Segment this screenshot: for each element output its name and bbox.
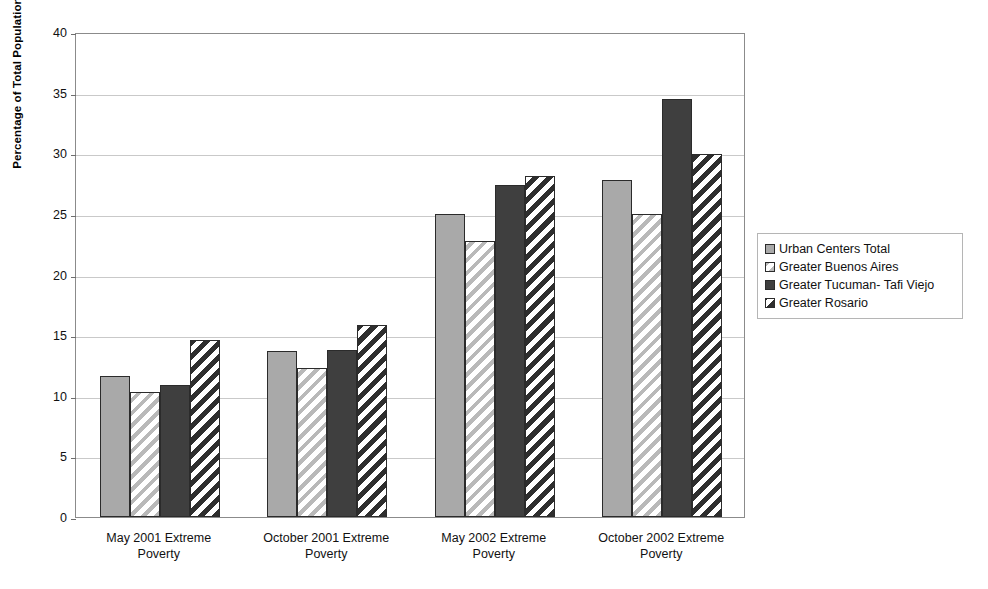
legend-swatch-icon: [765, 280, 775, 290]
x-axis-category-label: May 2001 ExtremePoverty: [69, 530, 249, 562]
y-axis-tick-label: 40: [31, 27, 67, 39]
y-axis-tickmark: [71, 337, 76, 338]
y-axis-tickmark: [71, 34, 76, 35]
y-axis-tickmark: [71, 398, 76, 399]
y-axis-tick-label: 10: [31, 391, 67, 403]
y-axis-tickmark: [71, 277, 76, 278]
x-axis-category-label-line: Poverty: [69, 546, 249, 562]
plot-area: [75, 33, 745, 518]
x-axis-category-label-line: Poverty: [404, 546, 584, 562]
y-axis-tick-label: 15: [31, 330, 67, 342]
bar: [130, 392, 160, 517]
x-axis-category-label-line: October 2002 Extreme: [571, 530, 751, 546]
bar: [267, 351, 297, 517]
bar: [465, 241, 495, 517]
bar-chart: Percentage of Total Population 051015202…: [0, 0, 988, 589]
x-axis-category-label-line: October 2001 Extreme: [236, 530, 416, 546]
legend-label: Urban Centers Total: [779, 242, 890, 256]
legend-item: Urban Centers Total: [765, 240, 956, 258]
y-axis-tickmark: [71, 519, 76, 520]
bar: [662, 99, 692, 517]
legend-label: Greater Buenos Aires: [779, 260, 899, 274]
y-axis-title: Percentage of Total Population: [8, 0, 26, 198]
bar: [495, 185, 525, 517]
legend-swatch-icon: [765, 298, 775, 308]
y-axis-tick-label: 25: [31, 209, 67, 221]
x-axis-category-label-line: Poverty: [571, 546, 751, 562]
legend-swatch-icon: [765, 262, 775, 272]
bar: [357, 325, 387, 517]
x-axis-category-label-line: May 2001 Extreme: [69, 530, 249, 546]
y-axis-tick-label: 20: [31, 270, 67, 282]
y-axis-tick-label: 0: [31, 512, 67, 524]
legend-label: Greater Tucuman- Tafi Viejo: [779, 278, 934, 292]
bar: [525, 176, 555, 517]
gridline: [76, 95, 744, 96]
bar: [100, 376, 130, 517]
y-axis-tickmark: [71, 458, 76, 459]
bar: [692, 154, 722, 517]
bar: [602, 180, 632, 517]
bar: [435, 214, 465, 517]
y-axis-tickmark: [71, 95, 76, 96]
bar: [632, 214, 662, 517]
y-axis-tickmark: [71, 216, 76, 217]
legend-swatch-icon: [765, 244, 775, 254]
bar: [327, 350, 357, 517]
y-axis-tickmark: [71, 155, 76, 156]
bar: [160, 385, 190, 517]
bar: [297, 368, 327, 517]
y-axis-tick-label: 30: [31, 148, 67, 160]
legend-item: Greater Buenos Aires: [765, 258, 956, 276]
x-axis-category-label-line: May 2002 Extreme: [404, 530, 584, 546]
chart-legend: Urban Centers TotalGreater Buenos AiresG…: [757, 233, 963, 319]
x-axis-category-label-line: Poverty: [236, 546, 416, 562]
bar: [190, 340, 220, 517]
legend-item: Greater Rosario: [765, 294, 956, 312]
x-axis-category-label: May 2002 ExtremePoverty: [404, 530, 584, 562]
y-axis-tick-label: 35: [31, 88, 67, 100]
legend-item: Greater Tucuman- Tafi Viejo: [765, 276, 956, 294]
y-axis-tick-label: 5: [31, 451, 67, 463]
x-axis-category-label: October 2002 ExtremePoverty: [571, 530, 751, 562]
gridline: [76, 155, 744, 156]
legend-label: Greater Rosario: [779, 296, 868, 310]
x-axis-category-label: October 2001 ExtremePoverty: [236, 530, 416, 562]
